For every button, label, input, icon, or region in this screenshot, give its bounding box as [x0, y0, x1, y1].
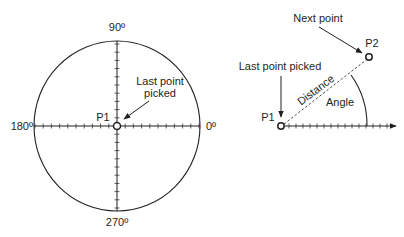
p1-point-marker: [114, 123, 121, 130]
label-270-degrees: 270º: [106, 216, 128, 228]
label-last-point-line1: Last point: [136, 75, 184, 87]
polar-coordinate-diagram: 90º 180º 0º 270º P1 Last point picked Ne…: [0, 0, 404, 237]
p2-point-marker: [366, 54, 372, 60]
last-point-arrow: [124, 101, 149, 119]
label-p1: P1: [96, 111, 109, 123]
next-point-arrow: [319, 27, 362, 53]
label-next-point: Next point: [293, 12, 343, 24]
label-0-degrees: 0º: [206, 120, 216, 132]
label-180-degrees: 180º: [11, 120, 33, 132]
label-90-degrees: 90º: [109, 21, 125, 33]
label-p2: P2: [365, 37, 378, 49]
label-angle: Angle: [326, 96, 354, 108]
left-polar-circle-diagram: 90º 180º 0º 270º P1 Last point picked: [11, 21, 217, 228]
right-distance-angle-diagram: Next point P2 Last point picked P1 Dista…: [239, 12, 396, 129]
p1-point-marker-right: [278, 123, 284, 129]
label-last-point-picked: Last point picked: [239, 60, 322, 72]
label-p1-right: P1: [261, 111, 274, 123]
label-last-point-line2: picked: [144, 87, 176, 99]
